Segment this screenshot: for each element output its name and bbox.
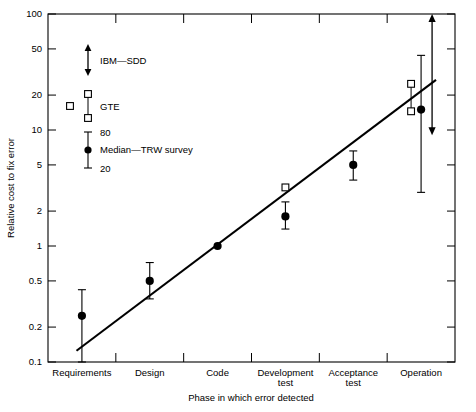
x-category-label: Operation: [400, 367, 442, 378]
legend-ibm-sdd-arrow-up: [85, 44, 92, 51]
legend-label-ibm-sdd: IBM—SDD: [100, 55, 147, 66]
y-tick-label: 0.2: [29, 321, 42, 332]
relative-cost-to-fix-error-chart: 0.10.20.5125102050100 RequirementsDesign…: [0, 0, 476, 412]
x-axis-ticks: [116, 14, 387, 362]
y-axis-title: Relative cost to fix error: [5, 138, 16, 238]
x-category-label: Developmenttest: [257, 367, 313, 388]
y-tick-label: 5: [37, 159, 42, 170]
regression-line: [76, 80, 436, 351]
legend-label-gte: GTE: [100, 101, 120, 112]
y-tick-label: 1: [37, 240, 42, 251]
chart-legend: IBM—SDDGTE80Median—TRW survey20: [67, 44, 193, 174]
legend-gte-square-single: [67, 103, 74, 110]
x-category-label: Acceptancetest: [328, 367, 378, 388]
gte-data-point: [408, 80, 415, 87]
ibm-sdd-arrow-head-up: [428, 14, 435, 22]
gte-data-point: [408, 108, 415, 115]
x-axis-title: Phase in which error detected: [188, 392, 314, 403]
median-data-point: [417, 105, 425, 113]
plot-frame: [48, 14, 455, 362]
trend-line: [76, 80, 436, 351]
legend-percentile-80: 80: [100, 127, 111, 138]
x-axis-category-labels: RequirementsDesignCodeDevelopmenttestAcc…: [52, 367, 442, 388]
legend-gte-square-lower: [85, 115, 92, 122]
ibm-sdd-arrow-head-down: [428, 127, 435, 135]
y-tick-label: 0.1: [29, 356, 42, 367]
x-category-label: Requirements: [52, 367, 111, 378]
legend-label-median-trw: Median—TRW survey: [100, 144, 193, 155]
gte-data-point: [282, 184, 289, 191]
x-category-label: Code: [206, 367, 229, 378]
median-data-point: [78, 312, 86, 320]
chart-container: 0.10.20.5125102050100 RequirementsDesign…: [0, 0, 476, 412]
legend-percentile-20: 20: [100, 163, 111, 174]
median-data-point: [213, 242, 221, 250]
legend-ibm-sdd-arrow-down: [85, 69, 92, 76]
y-tick-label: 2: [37, 205, 42, 216]
legend-median-dot: [84, 146, 91, 153]
y-tick-label: 20: [31, 89, 42, 100]
median-data-point: [349, 161, 357, 169]
y-axis-ticks: 0.10.20.5125102050100: [26, 8, 455, 367]
median-data-point: [146, 277, 154, 285]
y-tick-label: 50: [31, 43, 42, 54]
y-tick-label: 100: [26, 8, 42, 19]
legend-gte-square-upper: [85, 91, 92, 98]
x-category-label: Design: [135, 367, 165, 378]
y-tick-label: 10: [31, 124, 42, 135]
y-tick-label: 0.5: [29, 275, 42, 286]
median-data-point: [281, 212, 289, 220]
